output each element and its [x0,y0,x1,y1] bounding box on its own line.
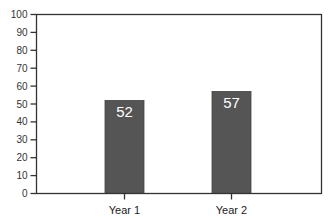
x-axis: Year 1Year 2 [109,194,247,216]
y-tick-label: 70 [16,63,28,74]
y-tick-label: 10 [16,170,28,181]
y-tick-label: 100 [11,9,28,20]
y-tick-label: 40 [16,116,28,127]
bars: 5257 [105,91,251,193]
y-tick-label: 0 [22,188,28,199]
y-tick-label: 90 [16,27,28,38]
plot-frame [37,15,322,194]
y-tick-label: 20 [16,152,28,163]
y-tick-label: 50 [16,99,28,110]
x-tick-label: Year 1 [109,204,140,216]
bar-value-label: 52 [116,103,133,120]
y-tick-label: 80 [16,45,28,56]
y-axis: 0102030405060708090100 [11,9,37,199]
y-tick-label: 60 [16,81,28,92]
y-tick-label: 30 [16,134,28,145]
bar-value-label: 57 [223,94,240,111]
x-tick-label: Year 2 [216,204,247,216]
bar-chart: 0102030405060708090100 5257 Year 1Year 2 [0,0,330,219]
